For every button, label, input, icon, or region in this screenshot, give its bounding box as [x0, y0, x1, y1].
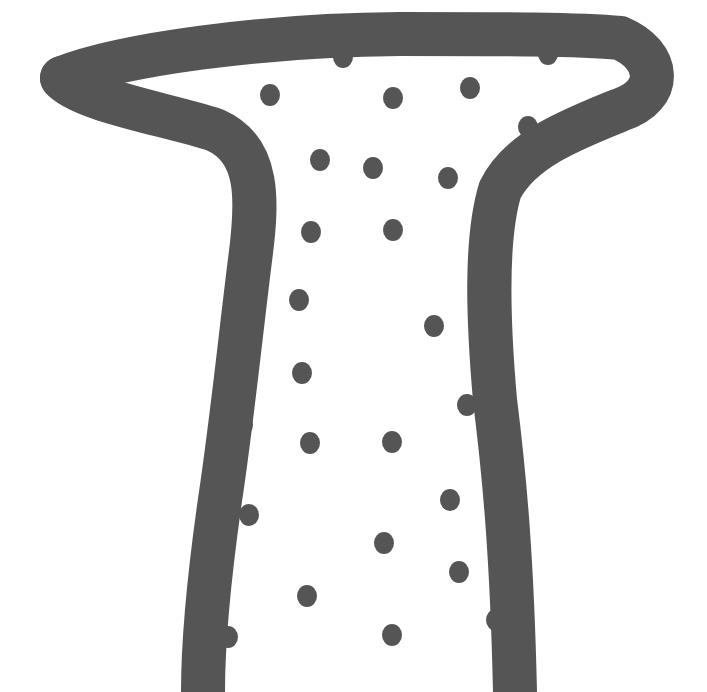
dot [457, 394, 477, 416]
dot [233, 414, 253, 436]
dot [383, 219, 403, 241]
dot [333, 46, 353, 68]
dot [301, 221, 321, 243]
dot [440, 489, 460, 511]
dot [297, 585, 317, 607]
dot [382, 624, 402, 646]
dot [518, 116, 538, 138]
dot [486, 609, 506, 631]
dot [424, 315, 444, 337]
dot [239, 504, 259, 526]
dot [363, 157, 383, 179]
dot [383, 87, 403, 109]
dot [260, 84, 280, 106]
dot [242, 303, 262, 325]
dot [449, 561, 469, 583]
dot [460, 77, 480, 99]
ink-drawing [0, 0, 707, 692]
dot [538, 43, 558, 65]
dot [382, 431, 402, 453]
dot [374, 532, 394, 554]
dot [438, 167, 458, 189]
dot [218, 626, 238, 648]
dot [300, 432, 320, 454]
dot [292, 362, 312, 384]
dot [310, 149, 330, 171]
dot [289, 289, 309, 311]
